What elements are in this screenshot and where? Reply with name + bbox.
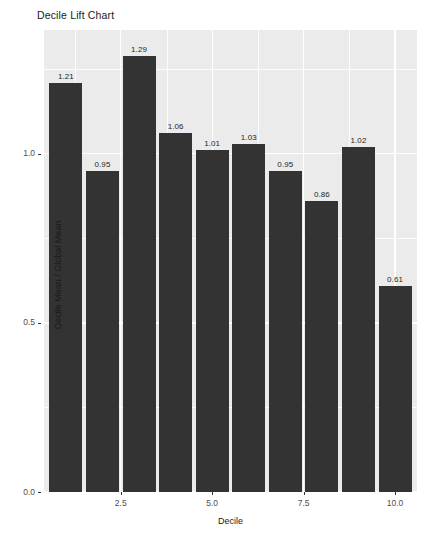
gridline-major-vertical	[303, 30, 304, 492]
bar-value-label: 1.03	[232, 133, 265, 142]
bar-value-label: 1.01	[196, 139, 229, 148]
bar-decile-2	[86, 171, 119, 492]
bar-value-label: 1.06	[159, 122, 192, 131]
chart-title: Decile Lift Chart	[37, 9, 114, 21]
x-tick-label: 7.5	[284, 498, 324, 508]
bar-decile-8	[305, 201, 338, 492]
y-tick-label: 0.5	[23, 317, 35, 327]
bar-decile-4	[159, 133, 192, 492]
bar-decile-10	[379, 286, 412, 492]
y-tick-label: 1.0	[23, 148, 35, 158]
bar-value-label: 1.29	[123, 45, 156, 54]
bar-decile-7	[269, 171, 302, 492]
bar-value-label: 0.61	[379, 275, 412, 284]
gridline-minor-horizontal	[44, 69, 417, 70]
x-tick-label: 10.0	[375, 498, 415, 508]
x-tick-mark	[212, 492, 213, 495]
bar-value-label: 0.86	[305, 190, 338, 199]
x-tick-label: 2.5	[101, 498, 141, 508]
plot-panel: 1.210.951.291.061.011.030.950.861.020.61	[44, 30, 417, 492]
y-tick-label: 0.0	[23, 487, 35, 497]
bar-decile-9	[342, 147, 375, 492]
y-tick-mark	[38, 492, 41, 493]
bar-value-label: 1.21	[49, 72, 82, 81]
bar-value-label: 0.95	[86, 160, 119, 169]
y-tick-mark	[38, 154, 41, 155]
x-axis: 2.55.07.510.0	[44, 492, 417, 514]
x-tick-mark	[304, 492, 305, 495]
x-tick-label: 5.0	[192, 498, 232, 508]
bar-value-label: 0.95	[269, 160, 302, 169]
y-tick-mark	[38, 323, 41, 324]
gridline-major-vertical	[120, 30, 121, 492]
bar-decile-6	[232, 144, 265, 492]
y-axis-title: Decile Mean / Global Mean	[53, 221, 63, 330]
x-tick-mark	[395, 492, 396, 495]
x-tick-mark	[121, 492, 122, 495]
x-axis-title: Decile	[44, 516, 417, 526]
bar-decile-5	[196, 150, 229, 492]
bar-decile-3	[123, 56, 156, 492]
decile-lift-chart: Decile Lift Chart 1.210.951.291.061.011.…	[0, 0, 428, 550]
bar-value-label: 1.02	[342, 136, 375, 145]
y-axis: 0.00.51.0	[0, 30, 41, 492]
